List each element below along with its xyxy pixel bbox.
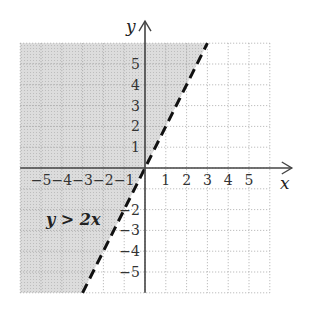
- y-axis-label: y: [125, 16, 136, 36]
- x-tick-label: −2: [93, 172, 114, 188]
- y-tick-label: −4: [119, 243, 140, 259]
- y-tick-label: 4: [131, 77, 140, 93]
- y-tick-label: −2: [119, 202, 140, 218]
- x-tick-label: 3: [203, 172, 212, 188]
- x-tick-label: 2: [182, 172, 191, 188]
- x-axis-label: x: [280, 173, 290, 193]
- y-tick-label: 3: [131, 98, 140, 114]
- x-tick-label: −5: [31, 172, 52, 188]
- x-tick-label: −4: [51, 172, 72, 188]
- y-tick-label: −5: [119, 264, 140, 280]
- y-tick-label: 5: [131, 56, 140, 72]
- y-tick-label: 1: [131, 139, 140, 155]
- x-tick-label: 1: [161, 172, 170, 188]
- x-tick-label: 5: [245, 172, 254, 188]
- y-tick-label: 2: [131, 118, 140, 134]
- x-tick-label: −3: [72, 172, 93, 188]
- x-tick-label: 4: [224, 172, 233, 188]
- y-tick-label: −3: [119, 222, 140, 238]
- x-tick-label: −1: [114, 172, 135, 188]
- graph: −5−4−3−2−11234554321−2−3−4−5 x y y > 2x: [0, 0, 310, 313]
- inequality-label: y > 2x: [45, 210, 101, 229]
